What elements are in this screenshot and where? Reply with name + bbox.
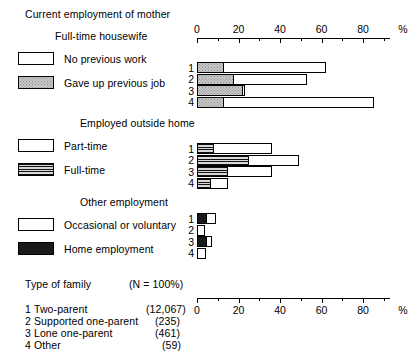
bar-row — [197, 236, 212, 247]
bar-segment — [206, 237, 210, 246]
axis-label-40: 40 — [274, 24, 286, 35]
family-row-1-label: Two-parent — [34, 303, 88, 315]
axis-tick-minor-70 — [342, 298, 343, 301]
bar-row — [197, 248, 206, 259]
bar-segment — [198, 249, 204, 258]
family-row-2-label: Supported one-parent — [34, 315, 138, 327]
bar-segment — [198, 156, 248, 165]
family-row-3-n: (461) — [155, 327, 180, 339]
axis-tick-40 — [280, 298, 281, 303]
axis-tick-40 — [280, 38, 281, 43]
bar-segment — [198, 98, 223, 107]
bar-row — [197, 225, 205, 236]
axis-label-20: 20 — [233, 24, 245, 35]
bar-segment — [233, 75, 306, 84]
legend-swatch-full-time — [18, 163, 54, 176]
legend-label-no-previous-work: No previous work — [64, 53, 147, 65]
bar-segment — [198, 86, 242, 95]
axis-tick-0 — [197, 38, 198, 43]
bar-row-number: 4 — [184, 178, 194, 188]
legend-swatch-home-employment — [18, 242, 54, 255]
axis-label-60: 60 — [316, 24, 328, 35]
bar-segment — [198, 144, 213, 153]
legend-label-part-time: Part-time — [64, 140, 108, 152]
bar-row — [197, 178, 228, 189]
bar-segment — [213, 144, 271, 153]
section-heading-employed-outside: Employed outside home — [80, 117, 195, 129]
bar-segment — [206, 214, 214, 223]
family-row-2: 2 Supported one-parent — [25, 315, 138, 327]
axis-tick-20 — [239, 298, 240, 303]
axis-label-0: 0 — [194, 24, 200, 35]
bar-row-number: 2 — [184, 155, 194, 165]
axis-tick-minor-50 — [301, 38, 302, 41]
family-row-3-label: Lone one-parent — [34, 327, 113, 339]
axis-tick-80 — [363, 38, 364, 43]
bar-segment — [198, 179, 210, 188]
bar-row — [197, 62, 326, 73]
bar-row-number: 4 — [184, 97, 194, 107]
legend-label-home-employment: Home employment — [64, 243, 154, 255]
bar-segment — [198, 63, 223, 72]
family-row-2-n: (235) — [155, 315, 180, 327]
family-row-2-num: 2 — [25, 315, 31, 327]
family-row-1: 1 Two-parent — [25, 303, 88, 315]
legend-swatch-gave-up-previous-job — [18, 76, 54, 89]
axis-tick-minor-10 — [218, 298, 219, 301]
bar-segment — [210, 179, 227, 188]
bar-segment — [198, 237, 206, 246]
family-key-n-note: (N = 100%) — [129, 278, 183, 290]
legend-swatch-no-previous-work — [18, 52, 54, 65]
axis-label-80: 80 — [357, 24, 369, 35]
bar-row — [197, 166, 272, 177]
axis-label-80: 80 — [357, 305, 369, 316]
chart-figure: Current employment of mother Full-time h… — [0, 0, 418, 359]
bar-segment — [198, 167, 227, 176]
family-row-4-n: (59) — [162, 339, 181, 351]
legend-label-occasional-or-voluntary: Occasional or voluntary — [64, 219, 176, 231]
bar-row-number: 3 — [184, 86, 194, 96]
axis-label-20: 20 — [233, 305, 245, 316]
legend-label-gave-up-previous-job: Gave up previous job — [64, 77, 165, 89]
bar-segment — [227, 167, 271, 176]
axis-label-60: 60 — [316, 305, 328, 316]
family-row-3-num: 3 — [25, 327, 31, 339]
bar-row — [197, 74, 307, 85]
chart-title: Current employment of mother — [25, 8, 170, 20]
legend-swatch-part-time — [18, 139, 54, 152]
axis-tick-0 — [197, 298, 198, 303]
axis-tick-minor-90 — [384, 298, 385, 301]
bar-row-number: 3 — [184, 167, 194, 177]
bar-segment — [198, 75, 233, 84]
family-row-3: 3 Lone one-parent — [25, 327, 113, 339]
family-row-4: 4 Other — [25, 339, 61, 351]
axis-unit-label: % — [398, 24, 407, 35]
axis-label-40: 40 — [274, 305, 286, 316]
legend-label-full-time: Full-time — [64, 164, 105, 176]
family-row-1-n: (12,067) — [146, 303, 186, 315]
section-heading-other-employment: Other employment — [80, 196, 168, 208]
bar-segment — [223, 98, 372, 107]
bar-row-number: 1 — [184, 214, 194, 224]
axis-tick-60 — [322, 38, 323, 43]
family-row-1-num: 1 — [25, 303, 31, 315]
axis-tick-minor-70 — [342, 38, 343, 41]
family-key-title: Type of family — [25, 278, 91, 290]
axis-bottom: 020406080% — [197, 298, 390, 308]
axis-tick-60 — [322, 298, 323, 303]
bar-row — [197, 85, 245, 96]
axis-tick-minor-90 — [384, 38, 385, 41]
bar-row-number: 1 — [184, 144, 194, 154]
legend-swatch-occasional-or-voluntary — [18, 218, 54, 231]
bar-row-number: 2 — [184, 74, 194, 84]
bar-row-number: 3 — [184, 237, 194, 247]
axis-tick-minor-30 — [259, 38, 260, 41]
axis-tick-20 — [239, 38, 240, 43]
bar-row — [197, 213, 216, 224]
axis-label-0: 0 — [194, 305, 200, 316]
axis-tick-minor-10 — [218, 38, 219, 41]
axis-tick-minor-50 — [301, 298, 302, 301]
bar-row — [197, 97, 374, 108]
family-row-4-num: 4 — [25, 339, 31, 351]
family-row-4-label: Other — [34, 339, 61, 351]
